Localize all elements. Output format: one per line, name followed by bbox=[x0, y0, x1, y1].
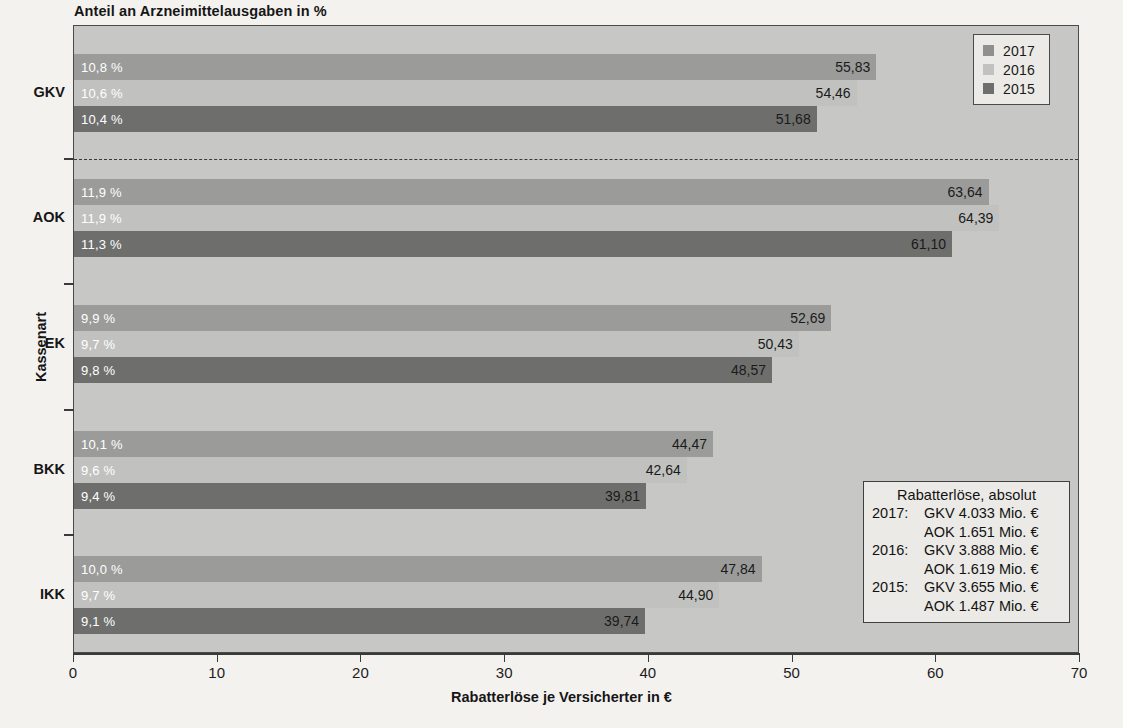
bar-ek-2016[interactable] bbox=[74, 331, 799, 357]
legend-label: 2015 bbox=[1003, 81, 1035, 97]
annotation-line: AOK 1.487 Mio. € bbox=[872, 597, 1061, 616]
x-tick-label: 70 bbox=[1071, 664, 1088, 681]
legend-item-2017[interactable]: 2017 bbox=[983, 41, 1035, 60]
bar-value-label: 42,64 bbox=[625, 462, 681, 478]
bar-bkk-2015[interactable] bbox=[74, 483, 646, 509]
bar-aok-2015[interactable] bbox=[74, 231, 952, 257]
annotation-line: 2016:GKV 3.888 Mio. € bbox=[872, 541, 1061, 560]
bar-share-label: 9,7 % bbox=[81, 336, 115, 351]
x-tick-label: 10 bbox=[208, 664, 225, 681]
legend-label: 2017 bbox=[1003, 43, 1035, 59]
annotation-value: AOK 1.619 Mio. € bbox=[924, 560, 1061, 579]
legend-swatch-icon bbox=[983, 64, 994, 75]
annotation-title: Rabatterlöse, absolut bbox=[872, 487, 1061, 503]
bar-aok-2016[interactable] bbox=[74, 205, 999, 231]
bar-row: 9,6 %42,64 bbox=[74, 457, 1078, 483]
y-category-label-gkv: GKV bbox=[34, 84, 65, 100]
bar-row: 10,1 %44,47 bbox=[74, 431, 1078, 457]
annotation-line: AOK 1.651 Mio. € bbox=[872, 523, 1061, 542]
bar-gkv-2017[interactable] bbox=[74, 54, 876, 80]
bar-share-label: 9,4 % bbox=[81, 488, 115, 503]
annotation-lines: 2017:GKV 4.033 Mio. €AOK 1.651 Mio. €201… bbox=[872, 504, 1061, 615]
annotation-box: Rabatterlöse, absolut 2017:GKV 4.033 Mio… bbox=[863, 481, 1070, 623]
bar-bkk-2017[interactable] bbox=[74, 431, 713, 457]
bar-ikk-2015[interactable] bbox=[74, 608, 645, 634]
annotation-value: AOK 1.651 Mio. € bbox=[924, 523, 1061, 542]
bar-ikk-2017[interactable] bbox=[74, 556, 762, 582]
bar-share-label: 9,6 % bbox=[81, 462, 115, 477]
chart-title: Anteil an Arzneimittelausgaben in % bbox=[74, 3, 327, 19]
x-tick bbox=[360, 653, 361, 662]
bar-row: 9,8 %48,57 bbox=[74, 357, 1078, 383]
legend-item-2015[interactable]: 2015 bbox=[983, 79, 1035, 98]
legend-swatch-icon bbox=[983, 83, 994, 94]
x-axis-line bbox=[73, 653, 1079, 655]
bar-gkv-2016[interactable] bbox=[74, 80, 857, 106]
x-tick bbox=[935, 653, 936, 662]
y-tick bbox=[64, 409, 74, 411]
bar-share-label: 11,9 % bbox=[81, 185, 122, 200]
x-tick-label: 60 bbox=[927, 664, 944, 681]
x-axis-title: Rabatterlöse je Versicherter in € bbox=[0, 689, 1123, 705]
bar-ek-2017[interactable] bbox=[74, 305, 831, 331]
x-tick-label: 20 bbox=[352, 664, 369, 681]
x-tick bbox=[648, 653, 649, 662]
y-tick bbox=[64, 158, 74, 160]
bar-share-label: 9,9 % bbox=[81, 310, 115, 325]
bar-share-label: 10,1 % bbox=[81, 436, 123, 451]
y-category-label-aok: AOK bbox=[33, 209, 65, 225]
annotation-line: 2015:GKV 3.655 Mio. € bbox=[872, 578, 1061, 597]
annotation-line: 2017:GKV 4.033 Mio. € bbox=[872, 504, 1061, 523]
annotation-line: AOK 1.619 Mio. € bbox=[872, 560, 1061, 579]
y-tick bbox=[64, 534, 74, 536]
bar-value-label: 50,43 bbox=[737, 336, 793, 352]
bar-value-label: 64,39 bbox=[937, 210, 993, 226]
x-tick-label: 30 bbox=[496, 664, 513, 681]
bar-group-ek: 9,9 %52,699,7 %50,439,8 %48,57 bbox=[74, 277, 1078, 403]
x-tick-label: 50 bbox=[783, 664, 800, 681]
bar-ek-2015[interactable] bbox=[74, 357, 772, 383]
bar-row: 9,7 %50,43 bbox=[74, 331, 1078, 357]
bar-row: 9,9 %52,69 bbox=[74, 305, 1078, 331]
bar-value-label: 54,46 bbox=[795, 85, 851, 101]
legend-label: 2016 bbox=[1003, 62, 1035, 78]
bar-value-label: 48,57 bbox=[710, 362, 766, 378]
x-tick bbox=[1079, 653, 1080, 662]
legend-item-2016[interactable]: 2016 bbox=[983, 60, 1035, 79]
bar-share-label: 9,8 % bbox=[81, 362, 115, 377]
annotation-year bbox=[872, 523, 924, 542]
bar-value-label: 63,64 bbox=[927, 184, 983, 200]
bar-aok-2017[interactable] bbox=[74, 179, 989, 205]
y-category-label-ikk: IKK bbox=[40, 586, 65, 602]
annotation-year: 2016: bbox=[872, 541, 924, 560]
bar-share-label: 10,8 % bbox=[81, 59, 123, 74]
bar-value-label: 47,84 bbox=[700, 561, 756, 577]
y-category-label-bkk: BKK bbox=[34, 461, 65, 477]
bar-row: 11,9 %64,39 bbox=[74, 205, 1078, 231]
y-tick bbox=[64, 283, 74, 285]
bar-share-label: 10,4 % bbox=[81, 111, 123, 126]
x-tick bbox=[504, 653, 505, 662]
chart-legend: 201720162015 bbox=[973, 34, 1050, 105]
annotation-year bbox=[872, 560, 924, 579]
bar-row: 11,3 %61,10 bbox=[74, 231, 1078, 257]
bar-share-label: 11,9 % bbox=[81, 211, 122, 226]
bar-ikk-2016[interactable] bbox=[74, 582, 719, 608]
bar-share-label: 10,6 % bbox=[81, 85, 123, 100]
bar-gkv-2015[interactable] bbox=[74, 106, 817, 132]
bar-bkk-2016[interactable] bbox=[74, 457, 687, 483]
bar-row: 11,9 %63,64 bbox=[74, 179, 1078, 205]
bar-value-label: 61,10 bbox=[890, 236, 946, 252]
x-tick bbox=[73, 653, 74, 662]
x-tick-label: 0 bbox=[69, 664, 77, 681]
bar-group-aok: 11,9 %63,6411,9 %64,3911,3 %61,10 bbox=[74, 152, 1078, 278]
x-tick bbox=[792, 653, 793, 662]
bar-value-label: 44,90 bbox=[657, 587, 713, 603]
annotation-year bbox=[872, 597, 924, 616]
bar-value-label: 55,83 bbox=[814, 59, 870, 75]
bar-value-label: 44,47 bbox=[651, 436, 707, 452]
x-tick bbox=[217, 653, 218, 662]
bar-row: 10,6 %54,46 bbox=[74, 80, 1078, 106]
annotation-value: GKV 3.655 Mio. € bbox=[924, 578, 1061, 597]
x-tick-label: 40 bbox=[640, 664, 657, 681]
